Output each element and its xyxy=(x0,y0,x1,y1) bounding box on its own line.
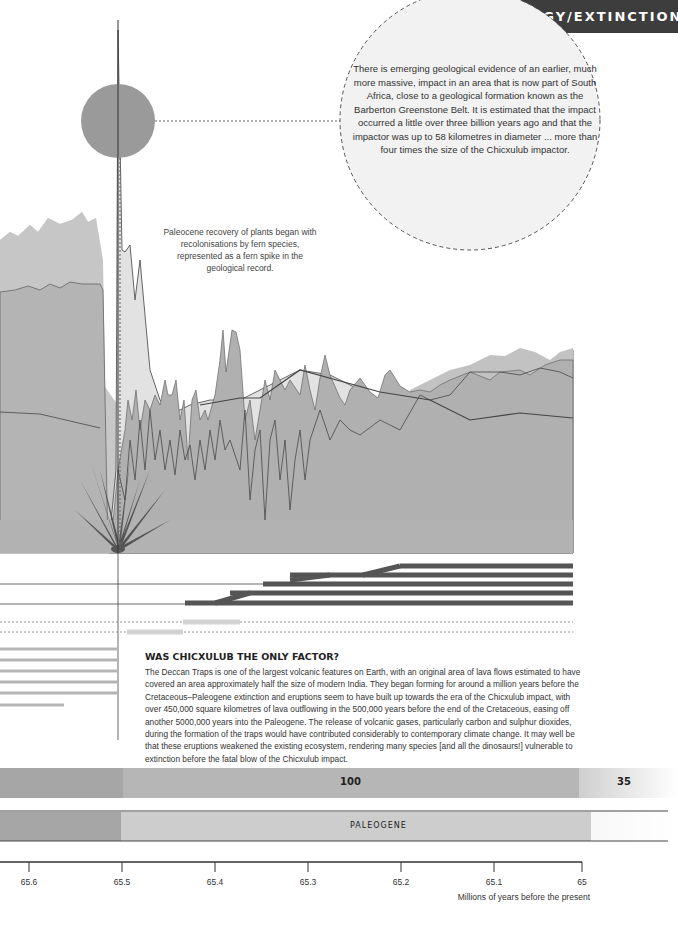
x-axis-title: Millions of years before the present xyxy=(430,892,590,902)
band1-cretaceous xyxy=(0,768,123,798)
article-title: WAS CHICXULUB THE ONLY FACTOR? xyxy=(145,651,339,662)
tick-label: 65.6 xyxy=(9,877,49,887)
lineage-bars xyxy=(185,566,573,603)
area-base xyxy=(0,520,573,553)
band1-value: 100 xyxy=(340,776,361,787)
band1-right-value: 35 xyxy=(617,776,631,787)
tick-label: 65.1 xyxy=(474,877,514,887)
article-body: The Deccan Traps is one of the largest v… xyxy=(145,666,585,765)
tick-label: 65.5 xyxy=(102,877,142,887)
band2-cretaceous xyxy=(0,812,121,841)
period-label: PALEOGENE xyxy=(350,821,407,830)
tick-label: 65.3 xyxy=(288,877,328,887)
left-stripes xyxy=(0,649,118,705)
impact-annotation: There is emerging geological evidence of… xyxy=(350,62,600,157)
fern-annotation: Paleocene recovery of plants began with … xyxy=(160,226,320,274)
tick-label: 65.2 xyxy=(381,877,421,887)
tick-label: 65 xyxy=(562,877,602,887)
tick-label: 65.4 xyxy=(195,877,235,887)
